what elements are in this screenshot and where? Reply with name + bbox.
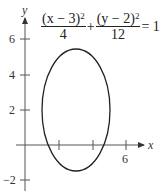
- denominator-x: 4: [60, 27, 67, 42]
- exponent: 2: [135, 11, 140, 21]
- fraction-y: (y − 2)2 12: [96, 11, 141, 42]
- y-tick-label-4: 4: [9, 68, 15, 82]
- x-tick-label-6: 6: [122, 152, 128, 166]
- denominator-y: 12: [111, 27, 125, 42]
- numerator-y: (y − 2): [97, 11, 135, 26]
- fraction-x: (x − 3)2 4: [41, 11, 86, 42]
- plus-sign: +: [87, 19, 95, 35]
- numerator-x: (x − 3): [42, 11, 80, 26]
- x-axis-label: x: [147, 138, 154, 152]
- y-tick-label-neg2: −2: [3, 173, 16, 187]
- ellipse-curve: [42, 49, 110, 171]
- y-tick-label-6: 6: [9, 32, 15, 46]
- exponent: 2: [80, 11, 85, 21]
- equals-one: = 1: [141, 19, 159, 35]
- y-tick-label-2: 2: [9, 103, 15, 117]
- equation-label: (x − 3)2 4 + (y − 2)2 12 = 1: [41, 11, 161, 42]
- y-axis-label: y: [21, 3, 28, 17]
